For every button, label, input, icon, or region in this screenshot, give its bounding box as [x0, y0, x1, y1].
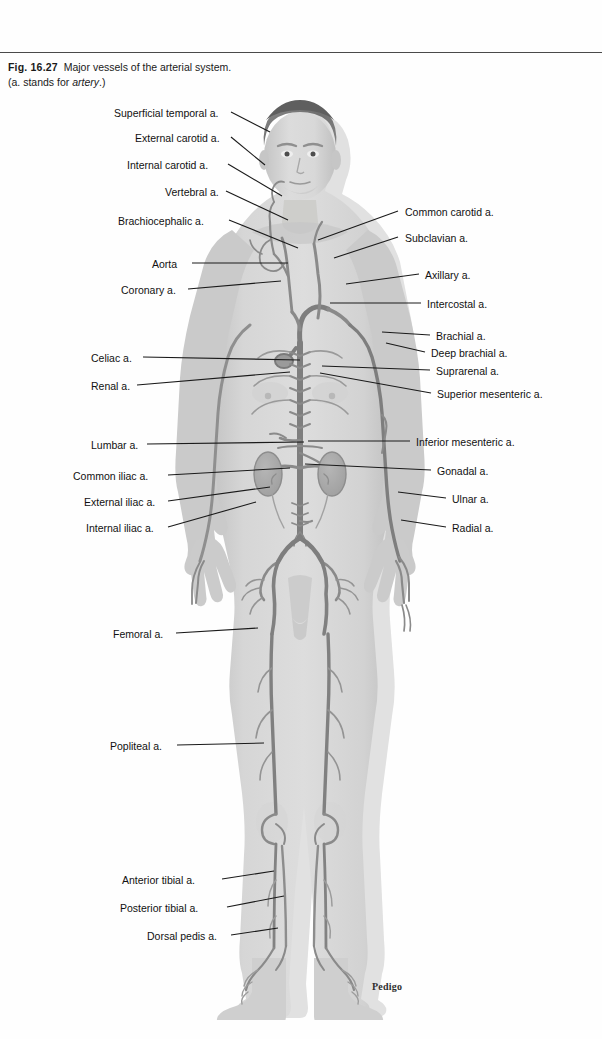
label-brachial-a: Brachial a. — [436, 331, 486, 342]
figure-number: Fig. 16.27 — [8, 61, 58, 73]
label-deep-brachial-a: Deep brachial a. — [431, 348, 507, 359]
label-subclavian-a: Subclavian a. — [405, 233, 468, 244]
label-popliteal-a: Popliteal a. — [110, 741, 162, 752]
label-internal-iliac-a: Internal iliac a. — [86, 523, 154, 534]
label-dorsal-pedis-a: Dorsal pedis a. — [147, 931, 217, 942]
label-femoral-a: Femoral a. — [113, 629, 163, 640]
label-brachiocephalic-a: Brachiocephalic a. — [118, 216, 204, 227]
label-renal-a: Renal a. — [91, 381, 130, 392]
label-vertebral-a: Vertebral a. — [165, 187, 219, 198]
label-internal-carotid-a: Internal carotid a. — [127, 160, 208, 171]
figure-page: Fig. 16.27 Major vessels of the arterial… — [0, 0, 602, 1039]
caption-divider-rule — [0, 52, 602, 53]
label-gonadal-a: Gonadal a. — [437, 466, 488, 477]
label-aorta: Aorta — [152, 259, 177, 270]
label-suprarenal-a: Suprarenal a. — [436, 366, 499, 377]
body-silhouette — [175, 100, 424, 1020]
label-superior-mesenteric-a: Superior mesenteric a. — [437, 389, 543, 400]
label-posterior-tibial-a: Posterior tibial a. — [120, 903, 198, 914]
label-common-carotid-a: Common carotid a. — [405, 207, 494, 218]
label-axillary-a: Axillary a. — [425, 270, 471, 281]
label-external-carotid-a: External carotid a. — [135, 133, 220, 144]
label-common-iliac-a: Common iliac a. — [73, 471, 148, 482]
label-ulnar-a: Ulnar a. — [452, 494, 489, 505]
anatomical-illustration — [0, 80, 602, 1020]
label-coronary-a: Coronary a. — [121, 285, 176, 296]
label-intercostal-a: Intercostal a. — [427, 299, 487, 310]
label-radial-a: Radial a. — [452, 523, 493, 534]
label-inferior-mesenteric-a: Inferior mesenteric a. — [416, 437, 515, 448]
label-lumbar-a: Lumbar a. — [91, 440, 138, 451]
figure-title: Major vessels of the arterial system. — [64, 61, 231, 73]
label-external-iliac-a: External iliac a. — [84, 497, 155, 508]
artist-signature: Pedigo — [372, 981, 402, 992]
label-superficial-temporal-a: Superficial temporal a. — [114, 108, 218, 119]
label-anterior-tibial-a: Anterior tibial a. — [122, 875, 195, 886]
label-celiac-a: Celiac a. — [91, 353, 132, 364]
